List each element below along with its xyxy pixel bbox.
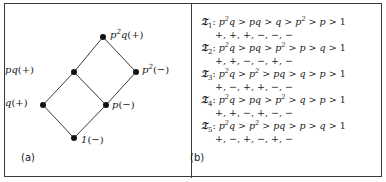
node-label-one: 1(−) [81,135,104,145]
order-chain-line: 𝔗1: p2q > pq > q > p2 > p > 1 [201,15,381,28]
panel-b-tag: (b) [190,152,204,163]
order-block: 𝔗1: p2q > pq > q > p2 > p > 1+, +, +, −,… [201,15,381,41]
hasse-node-q[interactable] [40,102,46,108]
node-label-p2: p2(−) [142,65,169,75]
order-chain-line: 𝔗3: p2q > p2 > pq > q > p > 1 [201,67,381,80]
figure-container: p2q(+)pq(+)p2(−)q(+)p(−)1(−) (a) 𝔗1: p2q… [4,3,382,177]
order-sign-line: +, +, −, −, +, − [201,54,381,67]
order-sign-line: +, +, −, +, −, − [201,106,381,119]
order-list: 𝔗1: p2q > pq > q > p2 > p > 1+, +, +, −,… [201,15,381,145]
hasse-node-p2q[interactable] [100,34,106,40]
node-label-pq: pq(+) [5,65,33,75]
order-sign-line: +, −, +, −, +, − [201,132,381,145]
order-block: 𝔗5: p2q > p2 > pq > p > q > 1+, −, +, −,… [201,119,381,145]
hasse-node-p2[interactable] [133,69,139,75]
node-label-q: q(+) [5,98,10,108]
hasse-edge [74,72,106,105]
order-block: 𝔗2: p2q > pq > p2 > p > q > 1+, +, −, −,… [201,41,381,67]
hasse-node-pq[interactable] [71,69,77,75]
order-sign-line: +, +, +, −, −, − [201,28,381,41]
hasse-node-p[interactable] [103,102,109,108]
order-chain-line: 𝔗4: p2q > pq > p2 > q > p > 1 [201,93,381,106]
order-sign-line: +, −, +, +, −, − [201,80,381,93]
order-chain-line: 𝔗2: p2q > pq > p2 > p > q > 1 [201,41,381,54]
hasse-edge [103,37,136,72]
hasse-edge [43,72,74,105]
node-label-p2q: p2q(+) [110,30,143,40]
panel-b-order-list: 𝔗1: p2q > pq > q > p2 > p > 1+, +, +, −,… [192,4,382,178]
hasse-node-one[interactable] [71,135,77,141]
hasse-edge [43,105,74,138]
hasse-edge [74,37,103,72]
order-block: 𝔗4: p2q > pq > p2 > q > p > 1+, +, −, +,… [201,93,381,119]
order-block: 𝔗3: p2q > p2 > pq > q > p > 1+, −, +, +,… [201,67,381,93]
panel-a-tag: (a) [21,152,35,163]
panel-a-hasse-diagram: p2q(+)pq(+)p2(−)q(+)p(−)1(−) (a) [5,4,191,178]
order-chain-line: 𝔗5: p2q > p2 > pq > p > q > 1 [201,119,381,132]
node-label-p: p(−) [112,100,135,110]
